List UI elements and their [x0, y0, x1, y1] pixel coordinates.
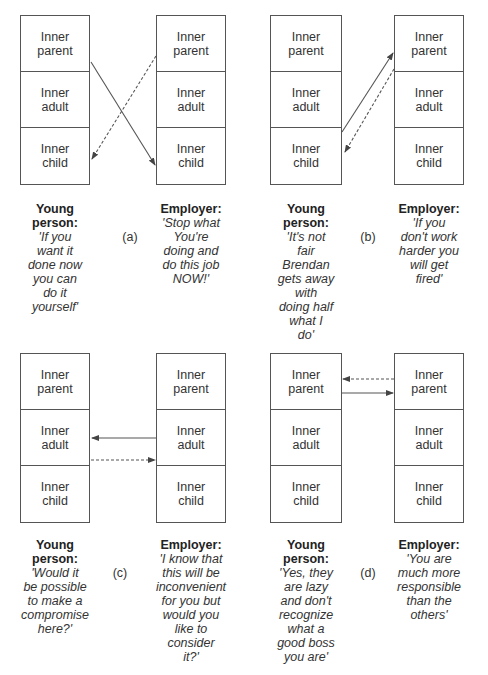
panel-b-young-caption: Young person: 'It's not fair Brendan get…	[263, 202, 349, 342]
inner-child-cell: Inner child	[21, 128, 89, 184]
role-employer: Employer:	[148, 538, 234, 552]
inner-child-cell: Inner child	[271, 466, 341, 522]
panel-a-employer-caption: Employer: 'Stop what You're doing and do…	[148, 202, 234, 286]
panel-a-label: (a)	[115, 230, 145, 244]
role-employer: Employer:	[148, 202, 234, 216]
inner-parent-cell: Inner parent	[157, 354, 225, 410]
panel-a-young-caption: Young person: 'If you want it done now y…	[12, 202, 98, 314]
panel-b-label: (b)	[353, 230, 383, 244]
panel-c-label: (c)	[105, 566, 135, 580]
inner-parent-cell: Inner parent	[271, 354, 341, 410]
inner-child-cell: Inner child	[395, 128, 463, 184]
inner-child-cell: Inner child	[157, 128, 225, 184]
panel-b-dashed-arrow	[345, 69, 394, 152]
inner-adult-cell: Inner adult	[395, 72, 463, 128]
inner-adult-cell: Inner adult	[157, 410, 225, 466]
inner-parent-cell: Inner parent	[21, 354, 89, 410]
panel-c-young-caption: Young person: 'Would it be possible to m…	[12, 538, 98, 636]
panel-a-solid-arrow	[91, 62, 155, 165]
panel-c-young-person-stack: Inner parent Inner adult Inner child	[20, 353, 90, 523]
inner-parent-cell: Inner parent	[21, 16, 89, 72]
panel-a-young-person-stack: Inner parent Inner adult Inner child	[20, 15, 90, 185]
young-person-quote: 'Would it be possible to make a compromi…	[12, 566, 98, 636]
panel-b-employer-caption: Employer: 'If you don't work harder you …	[386, 202, 472, 286]
inner-adult-cell: Inner adult	[157, 72, 225, 128]
inner-parent-cell: Inner parent	[271, 16, 341, 72]
inner-adult-cell: Inner adult	[21, 72, 89, 128]
panel-d-label: (d)	[353, 566, 383, 580]
inner-child-cell: Inner child	[271, 128, 341, 184]
role-young-person: Young person:	[12, 538, 98, 566]
panel-a-employer-stack: Inner parent Inner adult Inner child	[156, 15, 226, 185]
role-employer: Employer:	[386, 538, 472, 552]
inner-child-cell: Inner child	[157, 466, 225, 522]
inner-parent-cell: Inner parent	[157, 16, 225, 72]
panel-b-employer-stack: Inner parent Inner adult Inner child	[394, 15, 464, 185]
employer-quote: 'Stop what You're doing and do this job …	[148, 216, 234, 286]
young-person-quote: 'If you want it done now you can do it y…	[12, 230, 98, 314]
inner-parent-cell: Inner parent	[395, 16, 463, 72]
inner-adult-cell: Inner adult	[395, 410, 463, 466]
employer-quote: 'I know that this will be inconvenient f…	[148, 552, 234, 664]
inner-adult-cell: Inner adult	[271, 72, 341, 128]
inner-parent-cell: Inner parent	[395, 354, 463, 410]
panel-d-young-caption: Young person: 'Yes, they are lazy and do…	[263, 538, 349, 664]
role-young-person: Young person:	[263, 538, 349, 566]
panel-b-solid-arrow	[342, 53, 393, 132]
inner-child-cell: Inner child	[395, 466, 463, 522]
employer-quote: 'If you don't work harder you will get f…	[386, 216, 472, 286]
panel-b-young-person-stack: Inner parent Inner adult Inner child	[270, 15, 342, 185]
inner-child-cell: Inner child	[21, 466, 89, 522]
role-young-person: Young person:	[12, 202, 98, 230]
panel-d-employer-caption: Employer: 'You are much more responsible…	[386, 538, 472, 622]
panel-d-young-person-stack: Inner parent Inner adult Inner child	[270, 353, 342, 523]
panel-a-dashed-arrow	[92, 56, 156, 159]
inner-adult-cell: Inner adult	[271, 410, 341, 466]
young-person-quote: 'It's not fair Brendan gets away with do…	[263, 230, 349, 342]
panel-c-employer-stack: Inner parent Inner adult Inner child	[156, 353, 226, 523]
young-person-quote: 'Yes, they are lazy and don't recognize …	[263, 566, 349, 664]
role-young-person: Young person:	[263, 202, 349, 230]
employer-quote: 'You are much more responsible than the …	[386, 552, 472, 622]
panel-d-employer-stack: Inner parent Inner adult Inner child	[394, 353, 464, 523]
panel-c-employer-caption: Employer: 'I know that this will be inco…	[148, 538, 234, 664]
inner-adult-cell: Inner adult	[21, 410, 89, 466]
role-employer: Employer:	[386, 202, 472, 216]
